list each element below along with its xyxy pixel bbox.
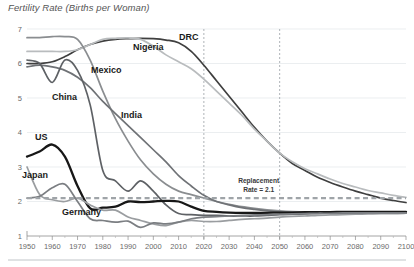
x-tick-label-2050: 2050: [271, 242, 288, 251]
chart-plot-area: 1234567 19501960197019801990200020102020…: [0, 0, 414, 267]
y-tick-label-4: 4: [18, 128, 22, 137]
series-line-drc: [27, 38, 406, 202]
x-tick-label-2000: 2000: [145, 242, 162, 251]
y-tick-label-5: 5: [18, 94, 22, 103]
x-axis-tick-labels: 1950196019701980199020002010202020302040…: [19, 242, 414, 251]
y-tick-label-2: 2: [18, 197, 22, 206]
y-tick-label-6: 6: [18, 59, 22, 68]
x-tick-label-2010: 2010: [170, 242, 187, 251]
x-tick-label-2100: 2100: [398, 242, 414, 251]
annotations-group: ReplacementRate = 2.1: [238, 177, 280, 193]
series-label-us: US: [35, 132, 48, 142]
gridlines-group: [27, 29, 406, 202]
x-tick-label-2030: 2030: [221, 242, 238, 251]
x-tick-label-2040: 2040: [246, 242, 263, 251]
series-line-india: [27, 65, 406, 213]
series-label-germany: Germany: [62, 207, 101, 217]
x-tick-label-1950: 1950: [19, 242, 36, 251]
series-label-japan: Japan: [22, 170, 48, 180]
series-line-mexico: [27, 36, 406, 213]
x-tick-label-2080: 2080: [347, 242, 364, 251]
y-tick-label-7: 7: [18, 25, 22, 34]
series-label-mexico: Mexico: [91, 65, 122, 75]
series-line-china: [27, 60, 406, 216]
x-tick-label-2060: 2060: [297, 242, 314, 251]
x-tick-label-1960: 1960: [44, 242, 61, 251]
x-tick-label-1990: 1990: [120, 242, 137, 251]
x-tick-label-2020: 2020: [196, 242, 213, 251]
replacement-rate-annotation-line1: Replacement: [238, 177, 280, 185]
x-tick-label-1980: 1980: [94, 242, 111, 251]
x-tick-label-2070: 2070: [322, 242, 339, 251]
series-label-india: India: [121, 110, 143, 120]
y-axis-tick-labels: 1234567: [18, 25, 22, 241]
fertility-rate-chart: Fertility Rate (Births per Woman) 123456…: [0, 0, 414, 267]
series-label-drc: DRC: [179, 32, 199, 42]
replacement-rate-annotation-line2: Rate = 2.1: [243, 186, 274, 193]
axes-group: [27, 231, 406, 240]
series-line-nigeria: [27, 38, 406, 197]
series-label-nigeria: Nigeria: [133, 42, 165, 52]
series-line-us: [27, 144, 406, 212]
x-tick-label-1970: 1970: [69, 242, 86, 251]
series-label-china: China: [52, 92, 78, 102]
x-tick-label-2090: 2090: [372, 242, 389, 251]
y-tick-label-1: 1: [18, 232, 22, 241]
